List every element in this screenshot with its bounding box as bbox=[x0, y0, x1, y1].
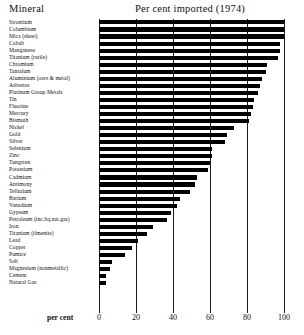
bar bbox=[99, 239, 138, 243]
tick-0 bbox=[99, 302, 100, 313]
tick-label-80: 80 bbox=[243, 313, 251, 322]
bar-row: Potassium bbox=[0, 167, 304, 174]
bar bbox=[99, 168, 208, 172]
bar bbox=[99, 133, 227, 137]
bar-row: Titanium (ilmenite) bbox=[0, 230, 304, 237]
bar-label: Cobalt bbox=[9, 40, 24, 47]
bar bbox=[99, 197, 180, 201]
bar bbox=[99, 175, 197, 179]
bar-row: Antimony bbox=[0, 181, 304, 188]
bar bbox=[99, 182, 195, 186]
bar-row: Tungsten bbox=[0, 160, 304, 167]
bar-label: Tin bbox=[9, 96, 17, 103]
bar-label: Gypsum bbox=[9, 209, 28, 216]
bar bbox=[99, 119, 249, 123]
bar-row: Petroleum (inc.liq.nat.gas) bbox=[0, 216, 304, 223]
bar-label: Gold bbox=[9, 131, 20, 138]
bar-label: Cement bbox=[9, 272, 27, 279]
bar-row: Silver bbox=[0, 139, 304, 146]
bar-row: Mica (sheet) bbox=[0, 33, 304, 40]
bar-row: Bismuth bbox=[0, 118, 304, 125]
bar-row: Tin bbox=[0, 97, 304, 104]
bar-row: Gold bbox=[0, 132, 304, 139]
bar bbox=[99, 84, 260, 88]
bar-label: Asbestos bbox=[9, 82, 30, 89]
bar bbox=[99, 211, 171, 215]
tick-label-60: 60 bbox=[206, 313, 214, 322]
bar-row: Cement bbox=[0, 273, 304, 280]
bar-label: Manganese bbox=[9, 47, 35, 54]
bar bbox=[99, 246, 132, 250]
bar-label: Pumice bbox=[9, 251, 26, 258]
bar-label: Mercury bbox=[9, 110, 29, 117]
bar-row: Titanium (rutile) bbox=[0, 54, 304, 61]
bar bbox=[99, 49, 280, 53]
tick-20 bbox=[136, 302, 137, 313]
bar bbox=[99, 112, 251, 116]
bar-row: Chromium bbox=[0, 61, 304, 68]
bar-label: Fluorine bbox=[9, 103, 28, 110]
x-axis-tick-labels: 020406080100 bbox=[0, 313, 304, 327]
bar-row: Tellurium bbox=[0, 188, 304, 195]
bar bbox=[99, 98, 254, 102]
bar-row: Nickel bbox=[0, 125, 304, 132]
bar bbox=[99, 147, 212, 151]
bar-row: Natural Gas bbox=[0, 280, 304, 287]
bar-label: Selenium bbox=[9, 145, 31, 152]
bar-label: Tungsten bbox=[9, 159, 30, 166]
bar-row: Columbium bbox=[0, 26, 304, 33]
bar-label: Potassium bbox=[9, 166, 32, 173]
bar-label: Salt bbox=[9, 258, 18, 265]
bar bbox=[99, 126, 234, 130]
bar-row: Pumice bbox=[0, 252, 304, 259]
bar-label: Titanium (ilmenite) bbox=[9, 230, 54, 237]
bar-row: Strontium bbox=[0, 19, 304, 26]
bar bbox=[99, 154, 212, 158]
tick-label-40: 40 bbox=[169, 313, 177, 322]
tick-40 bbox=[173, 302, 174, 313]
bar bbox=[99, 190, 190, 194]
bar-label: Aluminium (ores & metal) bbox=[9, 75, 70, 82]
bar bbox=[99, 140, 225, 144]
bar bbox=[99, 91, 258, 95]
bar-row: Cadmium bbox=[0, 174, 304, 181]
bar bbox=[99, 260, 112, 264]
tick-label-0: 0 bbox=[97, 313, 101, 322]
bar-row: Vanadium bbox=[0, 202, 304, 209]
bar bbox=[99, 253, 125, 257]
bar bbox=[99, 63, 267, 67]
bar-label: Iron bbox=[9, 223, 19, 230]
tick-60 bbox=[210, 302, 211, 313]
tick-100 bbox=[284, 302, 285, 313]
bar bbox=[99, 42, 280, 46]
bar-row: Mercury bbox=[0, 111, 304, 118]
bar-label: Cadmium bbox=[9, 174, 31, 181]
bar bbox=[99, 161, 210, 165]
bar bbox=[99, 27, 284, 31]
bar-row: Fluorine bbox=[0, 104, 304, 111]
bar bbox=[99, 105, 253, 109]
bar-label: Vanadium bbox=[9, 202, 32, 209]
bar-label: Titanium (rutile) bbox=[9, 54, 47, 61]
bar-label: Bismuth bbox=[9, 117, 28, 124]
bar-row: Copper bbox=[0, 245, 304, 252]
bar bbox=[99, 218, 167, 222]
bar bbox=[99, 281, 106, 285]
bar-row: Cobalt bbox=[0, 40, 304, 47]
bar bbox=[99, 56, 278, 60]
bar-row: Barium bbox=[0, 195, 304, 202]
bar-label: Tellurium bbox=[9, 188, 31, 195]
bar-label: Antimony bbox=[9, 181, 32, 188]
bar-label: Platinum Group Metals bbox=[9, 89, 63, 96]
bar-row: Zinc bbox=[0, 153, 304, 160]
bar-label: Tantalum bbox=[9, 68, 30, 75]
bar-rows: StrontiumColumbiumMica (sheet)CobaltMang… bbox=[0, 19, 304, 287]
bar-row: Selenium bbox=[0, 146, 304, 153]
chart-title: Per cent imported (1974) bbox=[135, 3, 245, 14]
bar bbox=[99, 77, 262, 81]
column-header-mineral: Mineral bbox=[9, 3, 44, 14]
bar-label: Chromium bbox=[9, 61, 34, 68]
bar-row: Aluminium (ores & metal) bbox=[0, 75, 304, 82]
bar-label: Lead bbox=[9, 237, 20, 244]
bar-label: Strontium bbox=[9, 19, 32, 26]
